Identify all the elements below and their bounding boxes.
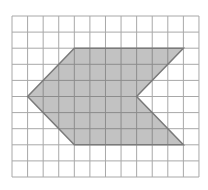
grid-figure (0, 0, 208, 190)
grid-diagram (0, 0, 208, 190)
